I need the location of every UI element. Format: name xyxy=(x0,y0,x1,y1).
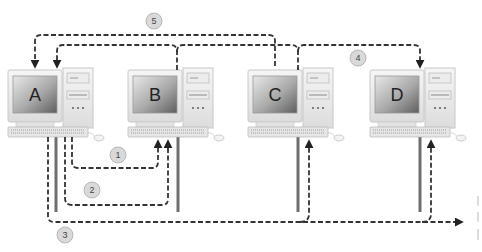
computer-d: D xyxy=(370,68,466,141)
computer-c-label: C xyxy=(269,85,282,105)
path-4-link-b-c xyxy=(177,45,298,70)
network-diagram: A B C D 1 2 3 4 5 xyxy=(0,0,482,252)
badge-2: 2 xyxy=(84,182,100,198)
svg-text:4: 4 xyxy=(355,53,360,63)
path-4-arrow-a xyxy=(57,45,177,70)
badge-1: 1 xyxy=(110,147,126,163)
path-3-branch-c xyxy=(300,141,309,222)
badge-4: 4 xyxy=(350,50,366,66)
badge-3: 3 xyxy=(57,227,73,243)
computer-a-label: A xyxy=(29,85,41,105)
computer-a: A xyxy=(8,68,104,141)
svg-text:2: 2 xyxy=(89,185,94,195)
svg-text:3: 3 xyxy=(62,230,67,240)
badge-5: 5 xyxy=(146,13,162,29)
path-5-arrow xyxy=(35,35,275,67)
path-3-arrow xyxy=(48,137,462,222)
computer-b: B xyxy=(128,68,224,141)
computer-b-label: B xyxy=(149,85,161,105)
computer-c: C xyxy=(248,68,344,141)
computer-d-label: D xyxy=(391,85,404,105)
path-3-branch-d xyxy=(422,141,431,222)
svg-text:5: 5 xyxy=(151,16,156,26)
svg-text:1: 1 xyxy=(115,150,120,160)
